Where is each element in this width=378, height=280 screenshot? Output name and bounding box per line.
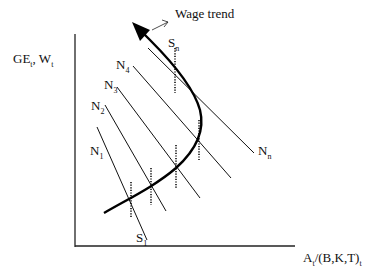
label-s1: S1 [136,230,147,248]
y-axis-label: GEt, Wt [13,51,53,69]
label-n4: N4 [116,57,129,75]
label-sn: Sn [168,35,179,53]
x-axis-label: At/(B,K,T)t [303,250,362,268]
diagram-canvas [0,0,378,280]
label-nn: Nn [258,143,271,161]
wage-trend-label: Wage trend [175,6,234,22]
label-pointer [152,22,168,30]
label-n1: N1 [90,143,103,161]
label-n3: N3 [104,77,117,95]
line-nn [148,48,254,153]
line-n1 [97,127,147,240]
label-n2: N2 [91,98,104,116]
